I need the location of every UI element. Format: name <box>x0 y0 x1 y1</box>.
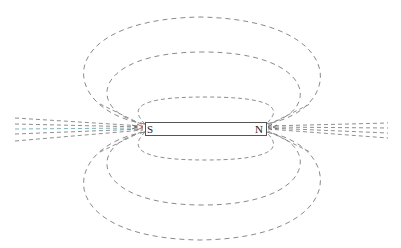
right-axial-field-lines <box>268 123 388 138</box>
magnetic-field-diagram: S N <box>0 0 401 248</box>
south-pole-label: S <box>147 123 153 135</box>
bar-magnet: S N <box>146 123 267 136</box>
north-pole-label: N <box>255 123 263 135</box>
